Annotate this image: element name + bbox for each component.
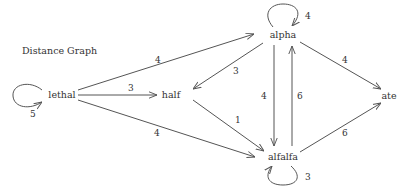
- edge-weight: 4: [261, 91, 267, 101]
- edge-weight: 3: [128, 83, 134, 93]
- node-alfalfa: alfalfa: [268, 151, 298, 162]
- edge-lethal-half: 3: [78, 83, 157, 95]
- distance-graph: Distance Graph 5 4 3 4: [0, 0, 410, 194]
- edge-weight: 4: [342, 55, 348, 65]
- edge-lethal-alpha: 4: [78, 34, 254, 90]
- node-ate: ate: [381, 90, 396, 101]
- edge-weight: 4: [154, 128, 160, 138]
- edge-alfalfa-alpha: 6: [292, 46, 303, 146]
- edge-lethal-lethal: 5: [13, 84, 42, 119]
- edge-alpha-ate: 4: [300, 42, 381, 89]
- edge-weight: 3: [305, 172, 311, 182]
- edge-half-alfalfa: 1: [193, 100, 264, 151]
- edge-lethal-alfalfa: 4: [78, 100, 255, 157]
- edge-weight: 1: [235, 115, 241, 125]
- edge-weight: 6: [297, 91, 303, 101]
- node-lethal: lethal: [48, 89, 75, 100]
- edge-alfalfa-alfalfa: 3: [268, 166, 311, 185]
- diagram-title: Distance Graph: [22, 45, 97, 56]
- edge-weight: 4: [155, 55, 161, 65]
- edge-alpha-alfalfa: 4: [261, 45, 274, 146]
- graph-canvas: 5 4 3 4 4 3 4: [0, 0, 410, 194]
- node-half: half: [162, 89, 182, 100]
- edge-weight: 3: [233, 66, 239, 76]
- edge-alpha-alpha: 4: [268, 4, 311, 27]
- edge-alfalfa-ate: 6: [300, 103, 381, 152]
- edge-weight: 6: [342, 128, 348, 138]
- node-alpha: alpha: [270, 29, 297, 40]
- edge-weight: 5: [30, 109, 36, 119]
- edge-weight: 4: [305, 11, 311, 21]
